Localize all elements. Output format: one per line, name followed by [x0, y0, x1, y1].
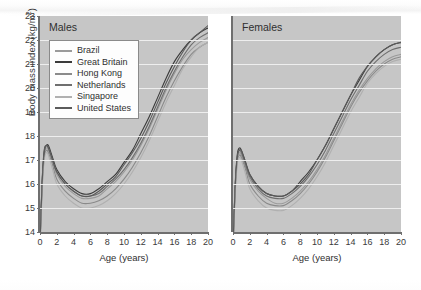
x-axis-tick-mark	[74, 232, 75, 235]
x-axis-tick-label: 12	[136, 237, 146, 247]
legend-swatch-icon	[55, 73, 72, 75]
y-axis-tick-mark	[37, 208, 40, 209]
x-axis-tick-mark	[334, 232, 335, 235]
legend-item-label: Netherlands	[77, 80, 126, 92]
legend-item-label: United States	[77, 103, 131, 115]
legend-swatch-icon	[55, 50, 72, 52]
curves-females	[233, 16, 401, 232]
x-axis-tick-mark	[300, 232, 301, 235]
gridline	[233, 136, 401, 137]
x-axis-tick-label: 18	[379, 237, 389, 247]
gridline	[40, 184, 208, 185]
legend-item: Singapore	[55, 91, 131, 103]
x-axis-tick-label: 0	[37, 237, 42, 247]
x-axis-tick-label: 14	[346, 237, 356, 247]
gridline	[233, 64, 401, 65]
y-axis-males	[38, 16, 40, 232]
gridline	[233, 184, 401, 185]
x-axis-tick-label: 6	[281, 237, 286, 247]
x-axis-tick-mark	[250, 232, 251, 235]
legend: BrazilGreat BritainHong KongNetherlandsS…	[49, 40, 139, 119]
y-axis-tick-label: 22	[25, 35, 35, 45]
y-axis-tick-mark	[37, 16, 40, 17]
scan-artifact-bottom	[0, 280, 421, 290]
x-axis-tick-label: 16	[362, 237, 372, 247]
gridline	[40, 208, 208, 209]
x-axis-tick-mark	[384, 232, 385, 235]
legend-item: Great Britain	[55, 57, 131, 69]
plot-area-females: Females	[233, 16, 401, 232]
legend-item-label: Hong Kong	[77, 68, 122, 80]
x-axis-tick-label: 8	[105, 237, 110, 247]
x-axis-tick-mark	[351, 232, 352, 235]
y-axis-tick-mark	[37, 160, 40, 161]
panel-males: Males BrazilGreat BritainHong KongNether…	[40, 16, 208, 232]
y-axis-tick-label: 20	[25, 83, 35, 93]
series-line	[233, 54, 401, 232]
legend-item-label: Great Britain	[77, 57, 128, 69]
x-axis-tick-mark	[208, 232, 209, 235]
x-axis-tick-mark	[158, 232, 159, 235]
x-axis-tick-mark	[317, 232, 318, 235]
gridline	[233, 40, 401, 41]
x-axis-tick-label: 20	[396, 237, 406, 247]
y-axis-tick-mark	[37, 88, 40, 89]
gridline	[233, 112, 401, 113]
y-axis-tick-label: 18	[25, 131, 35, 141]
x-axis-tick-label: 20	[203, 237, 213, 247]
y-axis-tick-mark	[37, 64, 40, 65]
x-axis-tick-label: 8	[298, 237, 303, 247]
x-axis-tick-mark	[124, 232, 125, 235]
x-axis-tick-mark	[90, 232, 91, 235]
x-axis-tick-label: 14	[153, 237, 163, 247]
y-axis-tick-mark	[37, 112, 40, 113]
legend-swatch-icon	[55, 96, 72, 98]
scan-artifact-top	[0, 0, 421, 14]
x-axis-tick-mark	[141, 232, 142, 235]
series-line	[233, 59, 401, 232]
legend-item-label: Brazil	[77, 45, 100, 57]
y-axis-tick-label: 19	[25, 107, 35, 117]
x-axis-tick-label: 4	[71, 237, 76, 247]
x-axis-tick-mark	[401, 232, 402, 235]
x-axis-label-females: Age (years)	[233, 252, 401, 263]
gridline	[233, 88, 401, 89]
y-axis-females	[231, 16, 233, 232]
x-axis-tick-mark	[40, 232, 41, 235]
x-axis-tick-mark	[267, 232, 268, 235]
y-axis-tick-mark	[37, 40, 40, 41]
x-axis-tick-mark	[367, 232, 368, 235]
panel-females: Females Age (years) 02468101214161820	[233, 16, 401, 232]
scan-streak	[0, 5, 421, 16]
x-axis-tick-label: 12	[329, 237, 339, 247]
x-axis-tick-label: 4	[264, 237, 269, 247]
x-axis-tick-label: 0	[230, 237, 235, 247]
x-axis-tick-label: 18	[186, 237, 196, 247]
legend-item: Brazil	[55, 45, 131, 57]
gridline	[233, 160, 401, 161]
x-axis-tick-label: 10	[119, 237, 129, 247]
x-axis-tick-mark	[233, 232, 234, 235]
x-axis-tick-label: 6	[88, 237, 93, 247]
x-axis-tick-label: 2	[54, 237, 59, 247]
gridline	[40, 136, 208, 137]
y-axis-tick-mark	[37, 184, 40, 185]
x-axis-tick-label: 16	[169, 237, 179, 247]
legend-item-label: Singapore	[77, 91, 118, 103]
x-axis-label-males: Age (years)	[40, 252, 208, 263]
figure-root: Body mass index (kg/m2) Males BrazilGrea…	[0, 0, 421, 290]
gridline	[40, 160, 208, 161]
legend-swatch-icon	[55, 107, 72, 109]
x-axis-tick-mark	[174, 232, 175, 235]
legend-item: United States	[55, 103, 131, 115]
y-axis-tick-label: 14	[25, 227, 35, 237]
x-axis-tick-mark	[107, 232, 108, 235]
series-line	[233, 57, 401, 232]
y-axis-tick-label: 21	[25, 59, 35, 69]
y-axis-tick-label: 17	[25, 155, 35, 165]
y-axis-tick-label: 15	[25, 203, 35, 213]
legend-item: Netherlands	[55, 80, 131, 92]
x-axis-tick-mark	[57, 232, 58, 235]
y-axis-tick-mark	[37, 136, 40, 137]
y-axis-tick-label: 23	[25, 11, 35, 21]
